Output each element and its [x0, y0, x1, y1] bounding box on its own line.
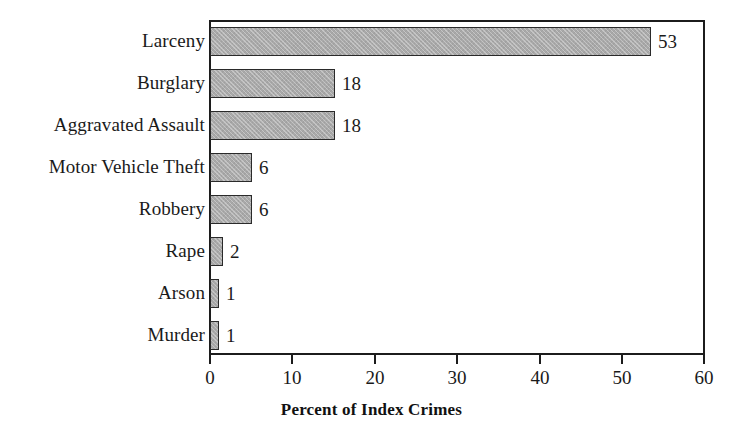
bar-row: Larceny 53 [0, 20, 743, 62]
category-label-burglary: Burglary [137, 62, 205, 104]
bar-row: Aggravated Assault 18 [0, 104, 743, 146]
x-tick-10 [291, 355, 293, 364]
bar-row: Arson 1 [0, 272, 743, 314]
x-tick-60 [703, 355, 705, 364]
bar-container-murder: 1 [210, 314, 236, 356]
bar-value-motor-vehicle-theft: 6 [259, 158, 269, 177]
x-tick-label-40: 40 [510, 367, 570, 389]
bar-container-motor-vehicle-theft: 6 [210, 146, 269, 188]
x-tick-40 [539, 355, 541, 364]
bar-container-robbery: 6 [210, 188, 269, 230]
bar-container-aggravated-assault: 18 [210, 104, 361, 146]
x-tick-label-30: 30 [427, 367, 487, 389]
x-tick-label-60: 60 [674, 367, 734, 389]
bar-value-larceny: 53 [658, 32, 677, 51]
bar-motor-vehicle-theft [210, 153, 252, 182]
bar-value-robbery: 6 [259, 200, 269, 219]
x-tick-20 [374, 355, 376, 364]
bar-burglary [210, 69, 335, 98]
bar-row: Murder 1 [0, 314, 743, 356]
bar-row: Burglary 18 [0, 62, 743, 104]
bar-row: Rape 2 [0, 230, 743, 272]
bar-container-larceny: 53 [210, 20, 677, 62]
bar-chart: Larceny 53 Burglary 18 Aggravated Assaul… [0, 0, 743, 446]
bar-value-rape: 2 [230, 242, 240, 261]
bar-value-murder: 1 [226, 326, 236, 345]
bar-container-rape: 2 [210, 230, 240, 272]
category-label-murder: Murder [147, 314, 205, 356]
x-axis-title: Percent of Index Crimes [0, 400, 743, 420]
bar-larceny [210, 27, 651, 56]
x-tick-50 [621, 355, 623, 364]
bar-container-burglary: 18 [210, 62, 361, 104]
bar-robbery [210, 195, 252, 224]
x-tick-label-50: 50 [592, 367, 652, 389]
category-label-robbery: Robbery [139, 188, 205, 230]
x-axis: 0 10 20 30 40 50 60 [209, 355, 705, 356]
x-tick-label-20: 20 [345, 367, 405, 389]
bar-arson [210, 279, 219, 308]
bar-rape [210, 237, 223, 266]
x-tick-30 [456, 355, 458, 364]
bar-value-aggravated-assault: 18 [342, 116, 361, 135]
x-tick-label-10: 10 [262, 367, 322, 389]
category-label-larceny: Larceny [142, 20, 205, 62]
x-tick-0 [209, 355, 211, 364]
bar-value-arson: 1 [226, 284, 236, 303]
bar-container-arson: 1 [210, 272, 236, 314]
bar-murder [210, 321, 219, 350]
category-label-motor-vehicle-theft: Motor Vehicle Theft [49, 146, 205, 188]
x-tick-label-0: 0 [180, 367, 240, 389]
bar-aggravated-assault [210, 111, 335, 140]
category-label-arson: Arson [158, 272, 205, 314]
category-label-aggravated-assault: Aggravated Assault [54, 104, 205, 146]
bar-value-burglary: 18 [342, 74, 361, 93]
bar-row: Robbery 6 [0, 188, 743, 230]
bar-rows: Larceny 53 Burglary 18 Aggravated Assaul… [0, 20, 743, 355]
category-label-rape: Rape [166, 230, 205, 272]
bar-row: Motor Vehicle Theft 6 [0, 146, 743, 188]
